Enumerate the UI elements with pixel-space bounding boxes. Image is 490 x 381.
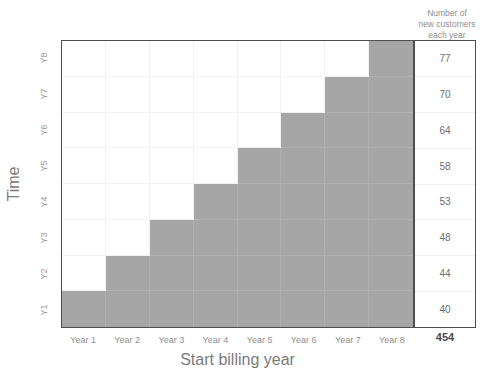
chart-plot-area — [61, 40, 414, 328]
grid-cell-filled — [281, 220, 325, 256]
x-tick-label: Year 6 — [282, 331, 326, 349]
grid-cell-empty — [194, 113, 238, 149]
grid-cell-empty — [62, 41, 106, 77]
x-tick-label: Year 5 — [238, 331, 282, 349]
grid-cell-empty — [62, 256, 106, 292]
grid-cell-filled — [194, 256, 238, 292]
grid-cell-empty — [150, 184, 194, 220]
y-tick: Y3 — [30, 220, 58, 256]
side-table: 77 70 64 58 53 48 44 40 — [414, 40, 476, 328]
y-tick-label: Y7 — [39, 88, 49, 99]
grid-cell-filled — [150, 256, 194, 292]
grid-cell-empty — [62, 184, 106, 220]
side-table-row: 48 — [415, 220, 475, 256]
grid-cell-filled — [369, 220, 413, 256]
grid-cell-filled — [194, 220, 238, 256]
x-tick-label: Year 8 — [370, 331, 414, 349]
y-tick: Y5 — [30, 148, 58, 184]
grid-cell-empty — [62, 77, 106, 113]
grid-cell-filled — [325, 291, 369, 327]
y-axis-tick-labels: Y8 Y7 Y6 Y5 Y4 Y3 Y2 Y1 — [30, 40, 58, 328]
y-axis-title: Time — [2, 40, 26, 328]
grid-cell-empty — [106, 77, 150, 113]
side-table-row: 40 — [415, 292, 475, 327]
grid-cell-filled — [325, 77, 369, 113]
grid-cell-filled — [238, 291, 282, 327]
y-tick: Y8 — [30, 40, 58, 76]
grid-cell-empty — [194, 77, 238, 113]
y-tick-label: Y8 — [39, 52, 49, 63]
grid-cell-filled — [325, 220, 369, 256]
grid-cell-filled — [369, 113, 413, 149]
y-axis-title-label: Time — [5, 167, 23, 202]
grid-cell-filled — [106, 256, 150, 292]
y-tick: Y1 — [30, 292, 58, 328]
grid-cell-filled — [369, 184, 413, 220]
grid-cell-empty — [325, 41, 369, 77]
x-tick-label: Year 4 — [193, 331, 237, 349]
grid-cell-filled — [369, 291, 413, 327]
grid-cell-empty — [150, 41, 194, 77]
grid-cell-filled — [194, 184, 238, 220]
side-table-row: 44 — [415, 256, 475, 292]
side-table-header-line1: Number of — [408, 8, 486, 19]
grid-cell-filled — [62, 291, 106, 327]
x-axis-title: Start billing year — [61, 351, 414, 369]
grid-cell-empty — [106, 113, 150, 149]
side-table-row: 53 — [415, 185, 475, 221]
y-tick: Y7 — [30, 76, 58, 112]
x-tick-label: Year 2 — [105, 331, 149, 349]
grid-cell-filled — [281, 256, 325, 292]
grid-cell-empty — [62, 220, 106, 256]
grid-cell-filled — [150, 291, 194, 327]
grid-cell-filled — [238, 256, 282, 292]
grid-cell-filled — [369, 77, 413, 113]
side-table-row: 77 — [415, 41, 475, 77]
grid-cell-empty — [106, 148, 150, 184]
y-tick: Y6 — [30, 112, 58, 148]
side-table-header: Number of new customers each year — [408, 8, 486, 41]
grid-cell-empty — [238, 41, 282, 77]
y-tick-label: Y3 — [39, 232, 49, 243]
cropped-title-remnant — [0, 0, 490, 6]
grid-cell-filled — [369, 148, 413, 184]
side-table-total: 454 — [414, 331, 476, 343]
grid-cell-filled — [106, 291, 150, 327]
grid-cell-filled — [369, 256, 413, 292]
side-table-row: 70 — [415, 77, 475, 113]
grid-cell-filled — [238, 184, 282, 220]
grid-cell-empty — [150, 113, 194, 149]
grid-cell-filled — [281, 291, 325, 327]
grid-cell-filled — [325, 256, 369, 292]
grid-cell-empty — [281, 77, 325, 113]
grid-cell-empty — [194, 148, 238, 184]
y-tick-label: Y5 — [39, 160, 49, 171]
grid-cell-empty — [62, 113, 106, 149]
side-table-header-line2: new customers — [408, 19, 486, 30]
grid-cell-filled — [325, 113, 369, 149]
grid-cell-empty — [106, 220, 150, 256]
grid-cell-filled — [281, 148, 325, 184]
grid-cell-empty — [106, 41, 150, 77]
grid-cell-empty — [194, 41, 238, 77]
grid-cell-empty — [150, 148, 194, 184]
grid-cell-empty — [150, 77, 194, 113]
y-tick-label: Y6 — [39, 124, 49, 135]
grid-cell-filled — [194, 291, 238, 327]
staircase-grid — [62, 41, 413, 327]
grid-cell-filled — [281, 113, 325, 149]
grid-cell-empty — [238, 77, 282, 113]
grid-cell-empty — [62, 148, 106, 184]
grid-cell-filled — [369, 41, 413, 77]
x-axis-tick-labels: Year 1 Year 2 Year 3 Year 4 Year 5 Year … — [61, 331, 414, 349]
side-table-row: 64 — [415, 113, 475, 149]
x-tick-label: Year 1 — [61, 331, 105, 349]
grid-cell-filled — [325, 148, 369, 184]
y-tick-label: Y2 — [39, 268, 49, 279]
grid-cell-filled — [150, 220, 194, 256]
grid-cell-filled — [281, 184, 325, 220]
y-tick: Y2 — [30, 256, 58, 292]
x-tick-label: Year 7 — [326, 331, 370, 349]
x-tick-label: Year 3 — [149, 331, 193, 349]
y-tick-label: Y1 — [39, 304, 49, 315]
